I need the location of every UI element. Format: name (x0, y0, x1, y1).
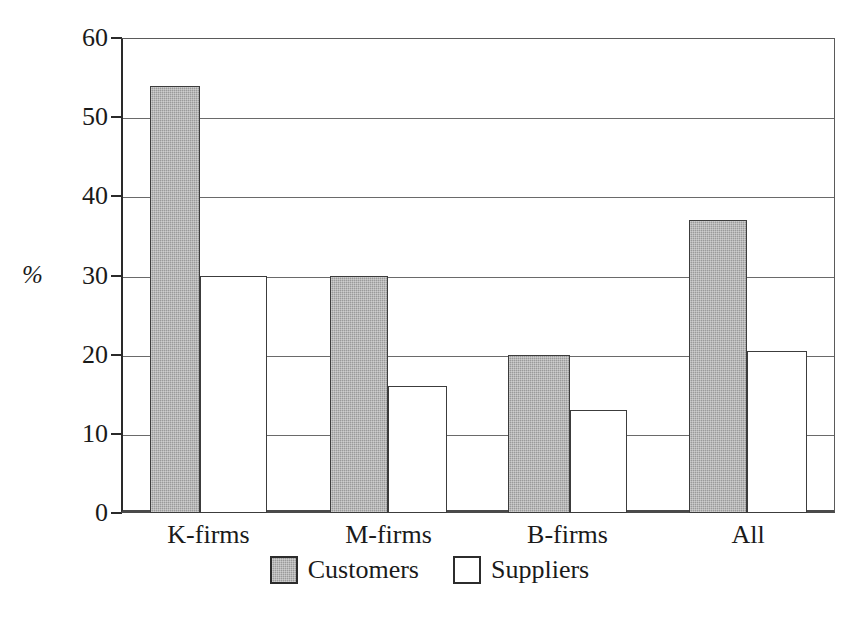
y-tick-label: 60 (56, 25, 108, 51)
y-tick-label: 30 (56, 263, 108, 289)
bar-chart: % 0102030405060 K-firmsM-firmsB-firmsAll… (0, 0, 859, 617)
legend-swatch-suppliers-icon (453, 556, 481, 584)
bar-all-suppliers (747, 351, 807, 513)
bar-k-firms-customers (150, 86, 200, 514)
legend-item-suppliers[interactable]: Suppliers (453, 556, 589, 584)
x-tick-label-b-firms: B-firms (478, 522, 658, 548)
y-tick-label: 10 (56, 421, 108, 447)
bar-k-firms-suppliers (200, 276, 267, 514)
x-tick-label-all: All (658, 522, 838, 548)
y-tick-label: 0 (56, 500, 108, 526)
y-tick-label: 20 (56, 342, 108, 368)
bar-m-firms-customers (330, 276, 388, 514)
y-tick-label: 40 (56, 183, 108, 209)
legend-label: Suppliers (491, 557, 589, 583)
legend-swatch-customers-icon (270, 556, 298, 584)
legend-item-customers[interactable]: Customers (270, 556, 419, 584)
y-axis-title: % (22, 262, 43, 287)
bar-b-firms-customers (508, 355, 570, 513)
bars-layer (121, 38, 835, 513)
bar-all-customers (689, 220, 747, 513)
y-tick-label: 50 (56, 104, 108, 130)
x-tick-label-k-firms: K-firms (119, 522, 299, 548)
x-tick-label-m-firms: M-firms (299, 522, 479, 548)
bar-b-firms-suppliers (570, 410, 627, 513)
legend-label: Customers (308, 557, 419, 583)
chart-legend: CustomersSuppliers (0, 556, 859, 584)
bar-m-firms-suppliers (388, 386, 447, 513)
